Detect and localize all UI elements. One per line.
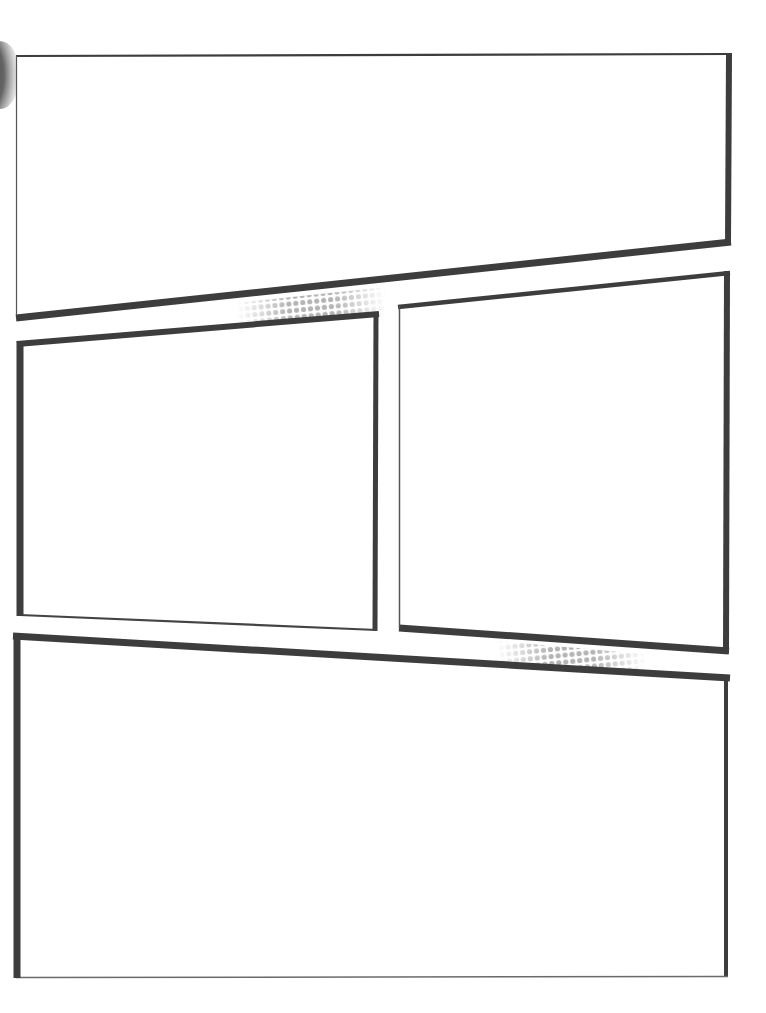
panel-3[interactable] bbox=[398, 271, 730, 653]
panel-4[interactable] bbox=[13, 633, 730, 978]
comic-page: Blank comic page template bbox=[0, 0, 766, 1013]
comic-page-canvas bbox=[0, 0, 766, 1013]
panel-1[interactable] bbox=[16, 54, 732, 318]
panel-2[interactable] bbox=[17, 312, 379, 631]
